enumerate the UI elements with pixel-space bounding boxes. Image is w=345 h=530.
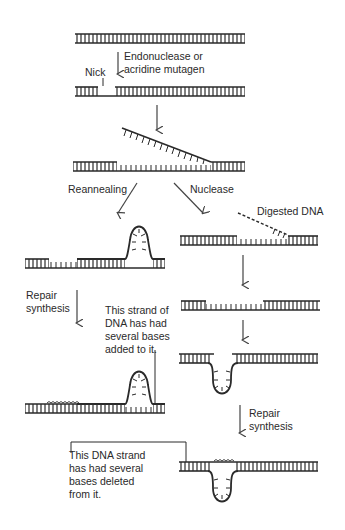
dna-gapped [181, 301, 320, 310]
label-repair-left: Repair synthesis [26, 289, 70, 315]
label-nuclease: Nuclease [190, 183, 234, 196]
dna-displaced-strand [73, 128, 245, 171]
dna-intact [75, 34, 245, 43]
dna-nicked [75, 78, 245, 96]
dna-insertion-result [25, 350, 165, 413]
dna-deletion-loop [179, 354, 318, 394]
label-added-note: This strand of DNA has had several bases… [105, 304, 170, 356]
dna-frameshift-diagram [0, 0, 345, 530]
label-repair-right: Repair synthesis [249, 407, 293, 433]
label-deleted-note: This DNA strand has had several bases de… [69, 449, 145, 501]
label-nick: Nick [85, 66, 105, 79]
label-step1: Endonuclease or acridine mutagen [124, 50, 205, 76]
label-digested-dna: Digested DNA [257, 205, 324, 218]
dna-reannealed-loop [25, 227, 165, 269]
label-reannealing: Reannealing [68, 183, 127, 196]
